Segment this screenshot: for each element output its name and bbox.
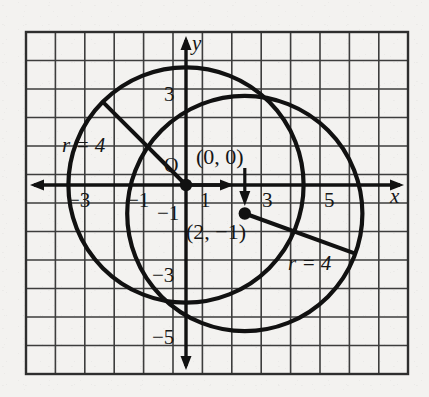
y-axis-up-arrow bbox=[181, 36, 192, 50]
center-coordinate-label: (2, −1) bbox=[186, 221, 246, 243]
x-tick-label-pos1: 1 bbox=[200, 190, 211, 211]
x-axis-label: x bbox=[390, 186, 399, 207]
x-tick-label-neg3: −3 bbox=[68, 190, 90, 211]
radius-label-right: r = 4 bbox=[288, 253, 331, 274]
center-point bbox=[239, 207, 251, 219]
y-tick-label-neg1: −1 bbox=[157, 203, 179, 224]
origin-coordinate-label: (0, 0) bbox=[196, 146, 244, 168]
figure-canvas: x y O (0, 0) (2, −1) r = 4 r = 4 −3 −1 1… bbox=[0, 0, 429, 397]
y-axis-label: y bbox=[192, 33, 201, 54]
origin-point bbox=[180, 179, 192, 191]
y-tick-label-neg3: −3 bbox=[152, 265, 174, 286]
x-tick-label-neg1: −1 bbox=[127, 190, 149, 211]
y-tick-label-neg5: −5 bbox=[152, 327, 174, 348]
origin-letter-label: O bbox=[164, 155, 178, 175]
x-tick-label-pos3: 3 bbox=[262, 190, 273, 211]
x-axis-left-arrow bbox=[30, 180, 44, 191]
origin-direction-arrow bbox=[190, 180, 234, 191]
coordinate-plane-figure bbox=[0, 0, 429, 397]
x-tick-label-pos5: 5 bbox=[324, 190, 335, 211]
y-axis-down-arrow bbox=[181, 356, 192, 370]
radius-label-left: r = 4 bbox=[62, 135, 105, 156]
y-tick-label-pos3: 3 bbox=[164, 84, 175, 105]
